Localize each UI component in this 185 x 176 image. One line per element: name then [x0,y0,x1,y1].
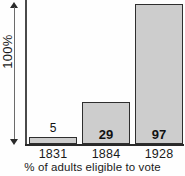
x-axis-caption: % of adults eligible to vote [0,161,185,173]
y-axis-label: 100% [0,24,15,80]
bar-value-1831: 5 [29,121,77,135]
bar-1884: 29 [82,102,130,144]
x-tick-1831: 1831 [27,147,79,161]
arrow-down-icon [10,139,18,145]
x-tick-labels: 1831 1884 1928 [27,147,184,161]
x-tick-1884: 1884 [80,147,132,161]
bar-1928: 97 [135,4,183,144]
x-tick-1928: 1928 [133,147,185,161]
plot-area: 5 29 97 [27,0,184,144]
x-axis-line [25,144,184,146]
bar-value-1928: 97 [136,127,182,142]
bar-1831 [29,137,77,144]
bar-value-1884: 29 [83,127,129,142]
bar-chart: 100% 5 29 97 1831 1884 1928 % of adults … [0,0,185,176]
